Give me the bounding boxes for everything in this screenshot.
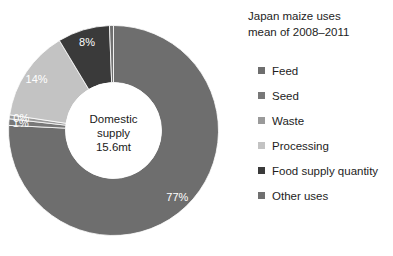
legend-swatch-icon xyxy=(258,117,265,124)
legend-item[interactable]: Food supply quantity xyxy=(258,158,393,183)
legend-label: Waste xyxy=(272,115,304,127)
slice-percent-label: 14% xyxy=(26,73,48,85)
slice-percent-label: 77% xyxy=(166,191,188,203)
legend-item[interactable]: Other uses xyxy=(258,183,393,208)
legend-item[interactable]: Processing xyxy=(258,133,393,158)
chart-title-line2: mean of 2008–2011 xyxy=(248,24,393,40)
chart-title: Japan maize uses mean of 2008–2011 xyxy=(248,8,393,40)
legend-label: Processing xyxy=(272,140,329,152)
legend-item[interactable]: Waste xyxy=(258,108,393,133)
slice-percent-label: 8% xyxy=(79,36,95,48)
center-label-line3: 15.6mt xyxy=(96,141,132,153)
legend-swatch-icon xyxy=(258,167,265,174)
legend-swatch-icon xyxy=(258,67,265,74)
legend-label: Seed xyxy=(272,90,299,102)
chart-legend: FeedSeedWasteProcessingFood supply quant… xyxy=(258,58,393,208)
legend-item[interactable]: Seed xyxy=(258,83,393,108)
donut-svg: Domestic supply 15.6mt 77%1%0%14%8% xyxy=(8,25,219,236)
legend-swatch-icon xyxy=(258,142,265,149)
legend-label: Other uses xyxy=(272,190,328,202)
chart-title-line1: Japan maize uses xyxy=(248,8,393,24)
legend-item[interactable]: Feed xyxy=(258,58,393,83)
legend-swatch-icon xyxy=(258,92,265,99)
legend-label: Feed xyxy=(272,65,298,77)
legend-swatch-icon xyxy=(258,192,265,199)
chart-figure: Domestic supply 15.6mt 77%1%0%14%8% Japa… xyxy=(0,0,393,256)
donut-chart: Domestic supply 15.6mt 77%1%0%14%8% xyxy=(8,25,219,236)
slice-percent-label: 0% xyxy=(13,112,29,124)
center-label-line1: Domestic xyxy=(90,113,138,125)
center-label-line2: supply xyxy=(97,127,130,139)
legend-label: Food supply quantity xyxy=(272,165,378,177)
